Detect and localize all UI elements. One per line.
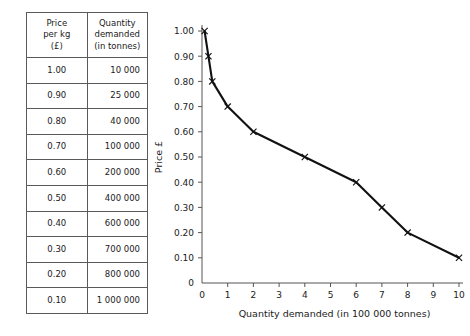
price-quantity-table-container: Price per kg (£) Quantity demanded (in t… xyxy=(26,12,148,312)
y-tick-label: 0.60 xyxy=(174,127,194,137)
x-tick-label: 2 xyxy=(251,290,257,300)
table-header-price: Price per kg (£) xyxy=(27,13,88,58)
header-price-line-3: (£) xyxy=(32,41,82,52)
table-row: 0.9025 000 xyxy=(27,83,148,109)
cell-price: 0.70 xyxy=(27,134,88,160)
header-price-line-1: Price xyxy=(32,18,82,29)
cell-price: 0.50 xyxy=(27,185,88,211)
y-axis-title: Price £ xyxy=(153,141,164,173)
y-tick-label: 0.80 xyxy=(174,77,194,87)
y-tick-label: 0.90 xyxy=(174,52,194,62)
cell-price: 0.40 xyxy=(27,211,88,237)
x-tick-label: 6 xyxy=(353,290,359,300)
y-tick-label: 1.00 xyxy=(174,26,194,36)
y-tick-label: 0.10 xyxy=(174,253,194,263)
cell-price: 0.20 xyxy=(27,262,88,288)
cell-price: 0.80 xyxy=(27,109,88,135)
table-row: 0.101 000 000 xyxy=(27,288,148,314)
x-tick-label: 1 xyxy=(225,290,231,300)
data-point-marker xyxy=(379,204,385,210)
x-tick-label: 9 xyxy=(430,290,436,300)
x-tick-label: 10 xyxy=(453,290,465,300)
cell-price: 0.10 xyxy=(27,288,88,314)
cell-quantity: 100 000 xyxy=(87,134,148,160)
x-tick-label: 3 xyxy=(276,290,282,300)
cell-quantity: 700 000 xyxy=(87,237,148,263)
y-tick-label: 0.30 xyxy=(174,203,194,213)
cell-price: 0.60 xyxy=(27,160,88,186)
chart-svg: 00.100.200.300.400.500.600.700.800.901.0… xyxy=(150,0,470,336)
table-row: 0.8040 000 xyxy=(27,109,148,135)
table-row: 0.60200 000 xyxy=(27,160,148,186)
header-price-line-2: per kg xyxy=(32,29,82,40)
cell-quantity: 600 000 xyxy=(87,211,148,237)
cell-quantity: 25 000 xyxy=(87,83,148,109)
cell-quantity: 800 000 xyxy=(87,262,148,288)
y-tick-label: 0.50 xyxy=(174,152,194,162)
table-row: 0.20800 000 xyxy=(27,262,148,288)
x-axis-ticks: 012345678910 xyxy=(199,283,465,300)
table-row: 1.0010 000 xyxy=(27,58,148,84)
table-row: 0.40600 000 xyxy=(27,211,148,237)
x-tick-label: 8 xyxy=(405,290,411,300)
table-header-quantity: Quantity demanded (in tonnes) xyxy=(87,13,148,58)
x-tick-label: 5 xyxy=(328,290,334,300)
demand-curve-chart: 00.100.200.300.400.500.600.700.800.901.0… xyxy=(150,0,470,336)
y-tick-label: 0.40 xyxy=(174,178,194,188)
cell-quantity: 40 000 xyxy=(87,109,148,135)
cell-quantity: 1 000 000 xyxy=(87,288,148,314)
data-point-markers xyxy=(201,28,462,261)
table-row: 0.50400 000 xyxy=(27,185,148,211)
header-quantity-line-3: (in tonnes) xyxy=(93,41,143,52)
header-quantity-line-2: demanded xyxy=(93,29,143,40)
y-tick-label: 0.20 xyxy=(174,228,194,238)
cell-price: 0.90 xyxy=(27,83,88,109)
cell-quantity: 10 000 xyxy=(87,58,148,84)
table-row: 0.70100 000 xyxy=(27,134,148,160)
demand-curve-line xyxy=(205,31,459,258)
y-axis-ticks: 00.100.200.300.400.500.600.700.800.901.0… xyxy=(174,26,202,288)
y-tick-label: 0 xyxy=(188,278,194,288)
table-header-row: Price per kg (£) Quantity demanded (in t… xyxy=(27,13,148,58)
data-point-marker xyxy=(225,104,231,110)
cell-quantity: 200 000 xyxy=(87,160,148,186)
cell-quantity: 400 000 xyxy=(87,185,148,211)
y-tick-label: 0.70 xyxy=(174,102,194,112)
x-tick-label: 7 xyxy=(379,290,385,300)
x-tick-label: 4 xyxy=(302,290,308,300)
table-row: 0.30700 000 xyxy=(27,237,148,263)
x-axis-title: Quantity demanded (in 100 000 tonnes) xyxy=(239,308,431,319)
table-body: 1.0010 0000.9025 0000.8040 0000.70100 00… xyxy=(27,58,148,314)
header-quantity-line-1: Quantity xyxy=(93,18,143,29)
table-header: Price per kg (£) Quantity demanded (in t… xyxy=(27,13,148,58)
cell-price: 0.30 xyxy=(27,237,88,263)
price-quantity-table: Price per kg (£) Quantity demanded (in t… xyxy=(26,12,148,314)
x-tick-label: 0 xyxy=(199,290,205,300)
cell-price: 1.00 xyxy=(27,58,88,84)
